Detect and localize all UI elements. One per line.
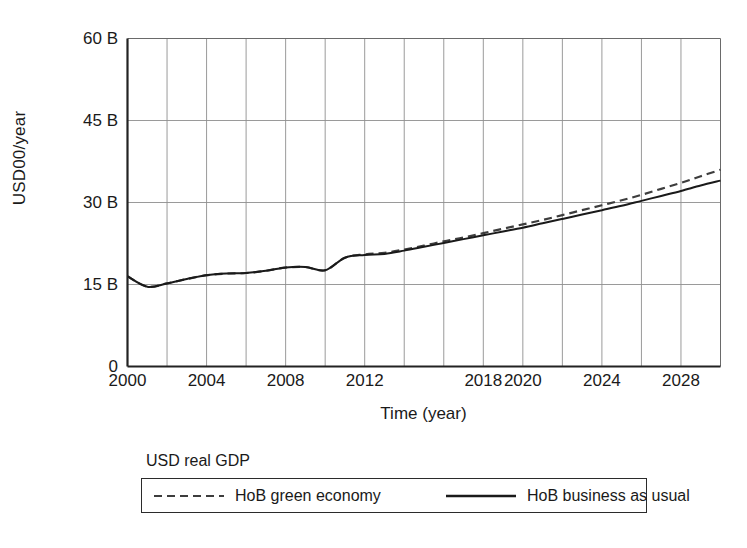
x-tick-label: 2008 — [267, 371, 305, 391]
x-tick-label: 2018 — [464, 371, 502, 391]
legend-title: USD real GDP — [146, 452, 250, 470]
dashed-line-icon — [152, 490, 226, 502]
x-tick-label: 2004 — [188, 371, 226, 391]
legend-entry-label: HoB green economy — [235, 487, 381, 505]
x-tick-label: 2024 — [583, 371, 621, 391]
legend-entry[interactable]: HoB green economy — [152, 478, 381, 513]
gdp-line-chart: 015 B30 B45 B60 B USD00/year 20002004200… — [0, 0, 747, 548]
series-line-hob-green-economy — [128, 170, 721, 287]
x-axis-title: Time (year) — [127, 404, 720, 424]
legend-entry[interactable]: HoB business as usual — [444, 478, 690, 513]
x-tick-label: 2020 — [504, 371, 542, 391]
plot-area — [0, 0, 747, 548]
solid-line-icon — [444, 490, 518, 502]
series-line-hob-business-as-usual — [128, 181, 721, 287]
legend-entry-label: HoB business as usual — [527, 487, 690, 505]
x-tick-label: 2028 — [662, 371, 700, 391]
x-tick-label: 2000 — [109, 371, 147, 391]
x-tick-label: 2012 — [346, 371, 384, 391]
